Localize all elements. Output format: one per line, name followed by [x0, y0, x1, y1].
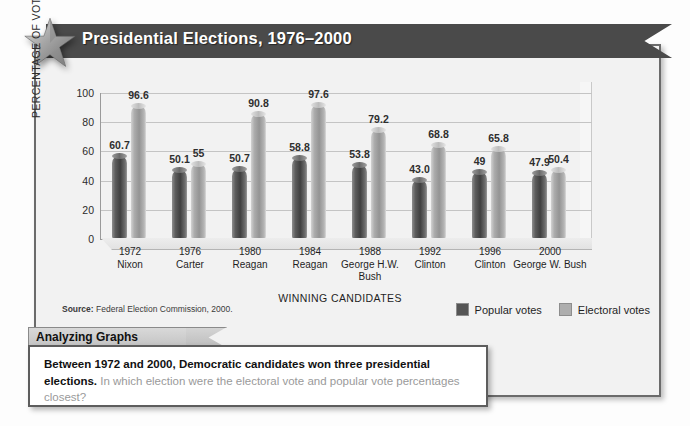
- y-axis-tick: 80: [82, 116, 94, 128]
- bar-cap: [371, 127, 386, 133]
- bar-value-label: 68.8: [428, 128, 448, 140]
- bar-cap: [412, 177, 427, 183]
- bar-cap: [551, 167, 566, 173]
- page-title: Presidential Elections, 1976–2000: [82, 29, 352, 48]
- legend-item-electoral-votes: Electoral votes: [559, 303, 650, 316]
- bar-1972-electoral: [131, 106, 146, 239]
- bar-2000-electoral: [551, 170, 566, 239]
- x-axis-candidate: George W. Bush: [512, 259, 588, 272]
- bar-value-label: 53.8: [349, 148, 369, 160]
- bar-1984-electoral: [311, 105, 326, 239]
- bar-1996-electoral: [491, 149, 506, 239]
- y-axis-tick: 100: [76, 87, 94, 99]
- bar-value-label: 90.8: [248, 97, 268, 109]
- bar-1988-popular: [352, 165, 367, 239]
- x-axis-group-label: 2000George W. Bush: [512, 246, 588, 271]
- bar-1996-popular: [472, 172, 487, 239]
- bar-cap: [532, 170, 547, 176]
- y-axis-tick: 20: [82, 204, 94, 216]
- grid-line: [101, 93, 592, 94]
- page-background: Presidential Elections, 1976–2000 PERCEN…: [0, 0, 690, 426]
- legend-swatch: [456, 303, 469, 316]
- bar-cap: [172, 167, 187, 173]
- bar-1988-electoral: [371, 130, 386, 239]
- bar-1984-popular: [292, 158, 307, 239]
- bar-value-label: 43.0: [409, 163, 429, 175]
- bar-cap: [191, 161, 206, 167]
- legend-item-popular-votes: Popular votes: [456, 303, 542, 316]
- bar-cap: [232, 166, 247, 172]
- chart-legend: Popular votesElectoral votes: [456, 303, 650, 316]
- chart-area: PERCENTAGE OF VOTES CAST 02040608010060.…: [34, 60, 657, 320]
- bar-value-label: 55: [193, 147, 205, 159]
- bar-value-label: 50.7: [229, 152, 249, 164]
- y-axis-tick: 0: [88, 233, 94, 245]
- source-prefix: Source:: [62, 304, 94, 314]
- legend-label: Electoral votes: [578, 304, 650, 316]
- bar-2000-popular: [532, 173, 547, 239]
- bar-1972-popular: [112, 156, 127, 239]
- bar-cap: [131, 103, 146, 109]
- bar-value-label: 97.6: [308, 88, 328, 100]
- bar-value-label: 50.1: [169, 153, 189, 165]
- bar-cap: [292, 155, 307, 161]
- legend-swatch: [559, 303, 572, 316]
- y-axis-tick: 60: [82, 145, 94, 157]
- bar-1992-electoral: [431, 145, 446, 239]
- plot-area: 02040608010060.796.650.15550.790.858.897…: [100, 93, 581, 240]
- bar-cap: [112, 153, 127, 159]
- bar-1976-popular: [172, 170, 187, 239]
- bar-value-label: 96.6: [128, 89, 148, 101]
- bar-cap: [352, 162, 367, 168]
- bar-value-label: 47.9: [529, 156, 549, 168]
- bar-value-label: 60.7: [109, 139, 129, 151]
- bar-cap: [251, 111, 266, 117]
- bar-value-label: 65.8: [488, 132, 508, 144]
- bar-value-label: 58.8: [289, 141, 309, 153]
- bar-1980-popular: [232, 169, 247, 239]
- bar-cap: [491, 146, 506, 152]
- bar-value-label: 50.4: [548, 153, 568, 165]
- grid-line: [101, 122, 592, 123]
- grid-line: [101, 151, 592, 152]
- callout-question: In which election were the electoral vot…: [44, 375, 460, 404]
- analyzing-graphs-callout: Between 1972 and 2000, Democratic candid…: [28, 345, 488, 407]
- y-axis-tick: 40: [82, 175, 94, 187]
- bar-1980-electoral: [251, 114, 266, 239]
- legend-label: Popular votes: [475, 304, 542, 316]
- x-axis-year: 2000: [512, 246, 588, 259]
- bar-1992-popular: [412, 180, 427, 239]
- y-axis-title: PERCENTAGE OF VOTES CAST: [30, 0, 42, 118]
- bar-1976-electoral: [191, 164, 206, 239]
- bar-cap: [431, 142, 446, 148]
- source-note: Source: Federal Election Commission, 200…: [62, 304, 233, 314]
- bar-value-label: 49: [474, 155, 486, 167]
- source-text: Federal Election Commission, 2000.: [96, 304, 233, 314]
- analyzing-graphs-label: Analyzing Graphs: [36, 330, 138, 344]
- bar-cap: [311, 102, 326, 108]
- bar-value-label: 79.2: [368, 113, 388, 125]
- bar-cap: [472, 169, 487, 175]
